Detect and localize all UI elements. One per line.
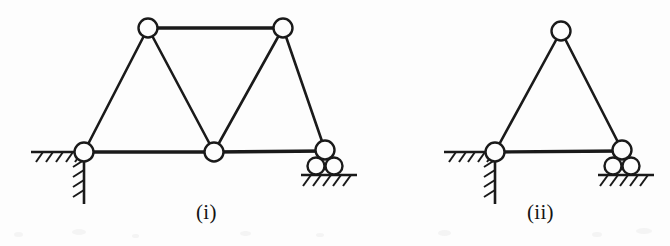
scan-speck (132, 234, 139, 238)
truss-diagram-canvas (0, 0, 670, 246)
figure-i-member-left-inner-diagonal (148, 28, 214, 152)
figure-ii-member-left-rafter (495, 31, 561, 152)
scan-speck (438, 230, 451, 236)
figure-i-joint-pin-support (75, 143, 94, 162)
figure-i-member-right-diagonal (283, 28, 325, 150)
scan-speck (316, 233, 324, 237)
figure-ii-member-bottom-chord (495, 151, 622, 152)
figure-ii-joint-apex (552, 22, 571, 41)
figure-ii-roller-support (598, 175, 654, 186)
scan-speck (14, 232, 23, 237)
figure-i-caption: (i) (196, 200, 217, 225)
figure-i-joint-roller-support (316, 141, 335, 160)
scan-speck (240, 231, 251, 236)
pin-support-wall-hatching (73, 160, 84, 197)
scan-speck (72, 229, 86, 235)
figure-ii-caption: (ii) (527, 200, 554, 225)
figure-ii-joint-roller-support (613, 141, 632, 160)
figure-i-member-left-diagonal (84, 28, 148, 152)
figure-i-member-bottom-chord-right (214, 151, 325, 152)
figure-i-joint-bottom-mid (205, 143, 224, 162)
scan-speck (592, 232, 602, 237)
figure-ii-group (444, 22, 654, 205)
figure-i-member-right-inner-diagonal (214, 28, 283, 152)
figure-i-group (31, 19, 357, 205)
roller-support-ground-hatching (600, 175, 648, 186)
scan-speck (636, 228, 652, 234)
figure-i-joint-top-left (139, 19, 158, 38)
figure-ii-member-right-rafter (561, 31, 622, 150)
figure-sheet: (i) (ii) (0, 0, 670, 246)
figure-ii-pin-support (444, 152, 495, 204)
pin-support-wall-hatching (484, 160, 495, 197)
figure-i-joint-top-right (274, 19, 293, 38)
figure-ii-joint-pin-support (486, 143, 505, 162)
figure-i-roller-support (301, 175, 357, 186)
roller-support-ground-hatching (303, 175, 351, 186)
figure-i-pin-support (31, 152, 84, 204)
